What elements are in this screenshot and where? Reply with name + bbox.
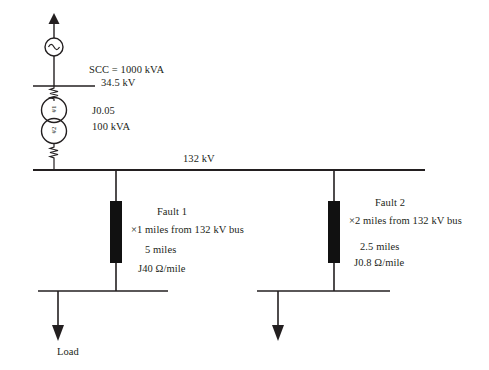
load-1-group	[38, 291, 168, 341]
source-branch	[45, 13, 63, 86]
transformer-lower-lead	[50, 144, 58, 171]
fault-2-distance-label: ×2 miles from 132 kV bus	[349, 214, 462, 228]
diagram-canvas	[0, 0, 489, 370]
feeder-2-branch	[328, 170, 340, 291]
fault-1-distance-label: ×1 miles from 132 kV bus	[131, 223, 244, 237]
fault-1-title: Fault 1	[130, 205, 214, 219]
scc-label: SCC = 1000 kVA	[89, 63, 164, 77]
source-voltage-label: 34.5 kV	[101, 76, 136, 90]
single-line-diagram: SCC = 1000 kVA 34.5 kV #1 #2 J0.05 100 k…	[0, 0, 489, 370]
transformer-winding-2-label: #2	[50, 123, 58, 137]
load-2-arrow-icon	[272, 325, 284, 341]
fault-2-title: Fault 2	[348, 196, 432, 210]
fault-2-impedance-label: J0.8 Ω/mile	[354, 256, 404, 270]
load-2-group	[257, 291, 390, 341]
feeder-1-branch	[110, 170, 122, 291]
load-1-arrow-icon	[52, 325, 64, 341]
transformer-winding-1-label: #1	[50, 102, 58, 116]
fault-2-impedance-block	[328, 201, 340, 263]
bus-132kv-label: 132 kV	[183, 152, 215, 166]
fault-1-impedance-block	[110, 201, 122, 263]
transformer-rating-label: 100 kVA	[92, 120, 130, 134]
fault-2-length-label: 2.5 miles	[360, 240, 399, 254]
fault-1-length-label: 5 miles	[145, 243, 176, 257]
load-1-label: Load	[57, 345, 79, 359]
source-arrow-icon	[49, 13, 60, 24]
fault-1-impedance-label: J40 Ω/mile	[138, 262, 186, 276]
transformer-zigzag-icon	[50, 86, 58, 101]
transformer-impedance-label: J0.05	[92, 104, 115, 118]
